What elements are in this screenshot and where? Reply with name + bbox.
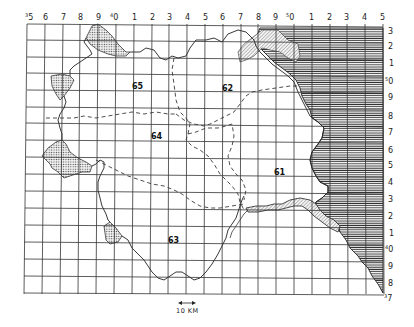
right-tick: 40 — [385, 244, 393, 254]
right-tick: 6 — [388, 146, 393, 155]
right-tick: 3 — [388, 27, 393, 36]
grid-map: 35 6 7 8 9 40 1 2 3 4 5 6 7 8 9 50 1 2 3… — [0, 0, 414, 327]
right-tick: 1 — [389, 229, 394, 238]
top-tick: 1 — [309, 13, 314, 22]
top-tick: 8 — [256, 13, 261, 22]
sea-area — [256, 28, 383, 293]
top-axis: 35 6 7 8 9 40 1 2 3 4 5 6 7 8 9 50 1 2 3… — [25, 12, 385, 22]
right-tick: 5 — [388, 161, 393, 170]
arrow-left-icon — [178, 301, 182, 305]
top-tick: 9 — [96, 13, 101, 22]
region-label-61: 61 — [274, 168, 286, 177]
right-tick: 8 — [388, 112, 393, 121]
right-tick: 50 — [385, 76, 393, 86]
top-tick: 50 — [286, 12, 294, 22]
right-tick: 8 — [388, 279, 393, 288]
arrow-right-icon — [192, 301, 196, 305]
top-tick: 35 — [25, 12, 33, 22]
right-tick: 37 — [384, 293, 392, 303]
top-tick: 8 — [78, 13, 83, 22]
right-tick: 2 — [388, 42, 393, 51]
river-line — [230, 210, 248, 238]
top-tick: 2 — [150, 13, 155, 22]
right-tick: 4 — [388, 178, 393, 187]
top-tick: 1 — [132, 13, 137, 22]
top-tick: 4 — [185, 13, 190, 22]
right-tick: 9 — [388, 262, 393, 271]
top-tick: 9 — [273, 13, 278, 22]
top-tick: 5 — [380, 13, 385, 22]
region-label-65: 65 — [132, 82, 144, 91]
right-tick: 9 — [388, 93, 393, 102]
top-tick: 40 — [110, 12, 118, 22]
scale-label: 10 KM — [176, 307, 199, 315]
top-tick: 5 — [203, 13, 208, 22]
top-tick: 7 — [238, 13, 243, 22]
right-tick: 7 — [388, 128, 393, 137]
top-tick: 7 — [61, 13, 66, 22]
right-tick: 3 — [388, 195, 393, 204]
region-label-62: 62 — [222, 84, 233, 93]
district-boundaries — [46, 58, 300, 210]
region-label-63: 63 — [168, 236, 179, 245]
right-tick: 1 — [389, 59, 394, 68]
top-tick: 6 — [43, 13, 48, 22]
stipple-patch-west-lower — [42, 140, 92, 178]
right-tick: 2 — [388, 212, 393, 221]
top-tick: 3 — [344, 13, 349, 22]
stipple-patch-north — [86, 24, 130, 56]
top-tick: 6 — [220, 13, 225, 22]
region-label-64: 64 — [151, 132, 163, 141]
top-tick: 3 — [167, 13, 172, 22]
top-tick: 2 — [327, 13, 332, 22]
top-tick: 4 — [362, 13, 367, 22]
scale-bar: 10 KM — [176, 301, 199, 315]
right-axis: 3 2 1 50 9 8 7 6 5 4 3 2 1 40 9 8 37 — [384, 27, 394, 303]
